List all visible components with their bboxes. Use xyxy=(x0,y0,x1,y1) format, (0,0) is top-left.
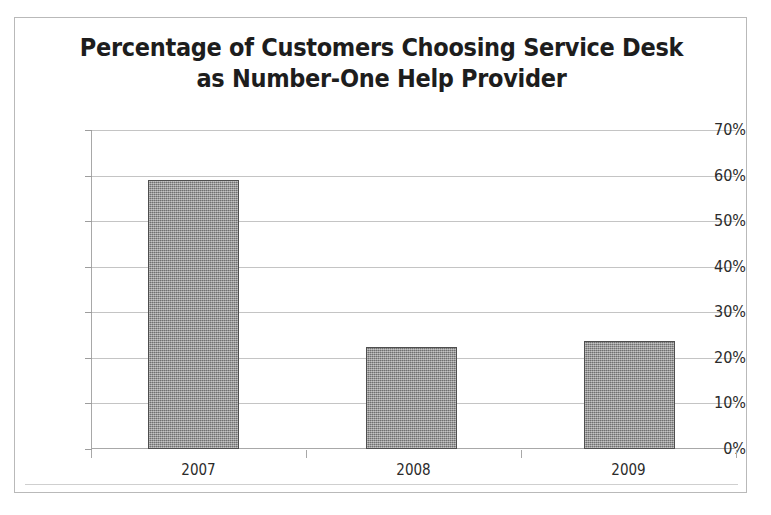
y-tick-mark-10 xyxy=(85,403,92,404)
chart-frame: Percentage of Customers Choosing Service… xyxy=(14,17,747,493)
y-tick-mark-50 xyxy=(85,221,92,222)
y-tick-mark-20 xyxy=(85,358,92,359)
bar-2009[interactable] xyxy=(584,341,675,449)
y-axis-label-60: 60% xyxy=(684,168,746,184)
y-tick-mark-40 xyxy=(85,267,92,268)
x-axis-label-2008: 2008 xyxy=(306,462,521,479)
bottom-divider xyxy=(25,484,738,485)
y-axis-line xyxy=(91,130,92,450)
x-tick-sep-4 xyxy=(736,450,737,458)
y-tick-mark-30 xyxy=(85,312,92,313)
plot-area xyxy=(91,130,736,449)
bar-2007[interactable] xyxy=(148,180,239,449)
y-axis-label-10: 10% xyxy=(684,395,746,411)
y-axis-label-70: 70% xyxy=(684,122,746,138)
gridline-60 xyxy=(91,176,736,177)
x-axis-label-2009: 2009 xyxy=(521,462,736,479)
bar-2008[interactable] xyxy=(366,347,457,449)
x-tick-sep-2 xyxy=(306,450,307,458)
y-axis-label-30: 30% xyxy=(684,304,746,320)
gridline-70 xyxy=(91,130,736,131)
x-tick-sep-1 xyxy=(91,450,92,458)
y-axis-label-50: 50% xyxy=(684,213,746,229)
y-tick-mark-60 xyxy=(85,176,92,177)
x-tick-sep-3 xyxy=(521,450,522,458)
x-axis-label-2007: 2007 xyxy=(91,462,306,479)
chart-title: Percentage of Customers Choosing Service… xyxy=(15,32,748,94)
y-tick-mark-70 xyxy=(85,130,92,131)
y-axis-label-20: 20% xyxy=(684,350,746,366)
y-axis-label-40: 40% xyxy=(684,259,746,275)
